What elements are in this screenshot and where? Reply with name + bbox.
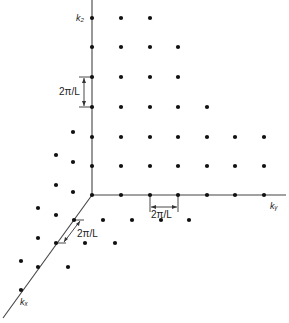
lattice-point [113, 241, 117, 245]
lattice-point [176, 45, 180, 49]
lattice-point [54, 153, 58, 157]
kz-axis-label: k₂ [76, 14, 84, 23]
k-space-lattice-diagram [0, 0, 289, 323]
axes [3, 0, 286, 318]
lattice-point [54, 241, 58, 245]
lattice-point [71, 160, 75, 164]
lattice-point [19, 288, 23, 292]
lattice-point [36, 236, 40, 240]
lattice-point [187, 218, 191, 222]
lattice-point [119, 45, 123, 49]
ky-axis-label: kᵧ [270, 202, 278, 211]
lattice-point [119, 16, 123, 20]
lattice-point [262, 135, 266, 139]
kz-arrowhead-up [82, 78, 86, 83]
lattice-point [176, 193, 180, 197]
kx-axis [3, 195, 92, 318]
lattice-point [90, 164, 94, 168]
lattice-point [66, 265, 70, 269]
lattice-point [233, 164, 237, 168]
lattice-point [83, 241, 87, 245]
lattice-point [205, 135, 209, 139]
lattice-points [19, 16, 266, 292]
lattice-point [130, 218, 134, 222]
lattice-point [262, 164, 266, 168]
lattice-point [233, 193, 237, 197]
lattice-point [71, 130, 75, 134]
kz-arrowhead-down [82, 101, 86, 106]
lattice-point [36, 265, 40, 269]
lattice-point [176, 135, 180, 139]
lattice-point [205, 193, 209, 197]
lattice-point [233, 135, 237, 139]
lattice-point [205, 164, 209, 168]
lattice-point [19, 259, 23, 263]
lattice-point [90, 135, 94, 139]
lattice-point [119, 75, 123, 79]
lattice-point [176, 164, 180, 168]
lattice-point [90, 45, 94, 49]
lattice-point [205, 105, 209, 109]
lattice-point [71, 190, 75, 194]
lattice-point [54, 213, 58, 217]
lattice-point [176, 75, 180, 79]
lattice-point [54, 183, 58, 187]
lattice-point [119, 135, 123, 139]
lattice-point [119, 193, 123, 197]
lattice-point [148, 164, 152, 168]
lattice-point [72, 218, 76, 222]
lattice-point [90, 193, 94, 197]
lattice-point [90, 105, 94, 109]
lattice-point [119, 105, 123, 109]
lattice-point [101, 218, 105, 222]
lattice-point [262, 193, 266, 197]
kz-spacing-label: 2π/L [59, 87, 80, 97]
lattice-point [90, 16, 94, 20]
lattice-point [119, 164, 123, 168]
lattice-point [148, 105, 152, 109]
lattice-point [148, 16, 152, 20]
lattice-point [148, 75, 152, 79]
kx-axis-label: kₓ [20, 298, 28, 307]
lattice-point [36, 206, 40, 210]
ky-arrowhead-right [172, 205, 177, 209]
kx-spacing-label: 2π/L [77, 229, 98, 239]
lattice-point [148, 45, 152, 49]
lattice-point [90, 75, 94, 79]
lattice-point [148, 135, 152, 139]
ky-spacing-label: 2π/L [151, 210, 172, 220]
lattice-point [176, 105, 180, 109]
lattice-point [148, 193, 152, 197]
